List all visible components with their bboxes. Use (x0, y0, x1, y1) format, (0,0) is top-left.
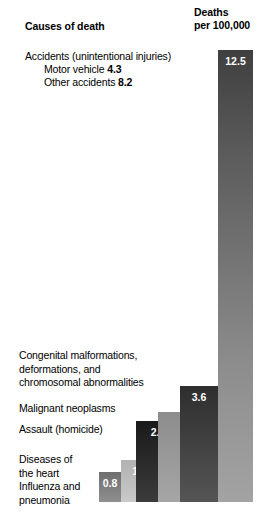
page-title: Causes of death (25, 20, 105, 33)
category-label-influenza-pneumonia: Influenza and pneumonia (19, 480, 80, 507)
breakdown-other-accidents-value: 8.2 (118, 76, 132, 88)
breakdown-motor-vehicle: Motor vehicle 4.3 (44, 63, 121, 77)
category-label-diseases-of-heart: Diseases of the heart (19, 453, 72, 480)
value-axis-title: Deaths per 100,000 (194, 6, 250, 32)
bar-value-congenital: 3.6 (180, 391, 218, 403)
category-label-congenital: Congenital malformations, deformations, … (19, 349, 144, 390)
bar-accidents: 12.5 (218, 50, 253, 502)
category-label-accidents: Accidents (unintentional injuries) (25, 50, 171, 64)
category-label-assault: Assault (homicide) (19, 423, 103, 437)
breakdown-other-accidents-label: Other accidents (44, 76, 115, 88)
bar-congenital: 3.6 (180, 386, 218, 502)
breakdown-motor-vehicle-value: 4.3 (107, 63, 121, 75)
breakdown-other-accidents: Other accidents 8.2 (44, 76, 132, 90)
breakdown-motor-vehicle-label: Motor vehicle (44, 63, 105, 75)
bar-influenza-pneumonia: 0.8 (99, 472, 121, 502)
bar-chart: Causes of death Deaths per 100,000 Accid… (0, 0, 264, 517)
bar-value-influenza-pneumonia: 0.8 (99, 477, 121, 489)
bar-value-accidents: 12.5 (218, 55, 253, 67)
category-label-malignant-neoplasms: Malignant neoplasms (19, 402, 115, 416)
